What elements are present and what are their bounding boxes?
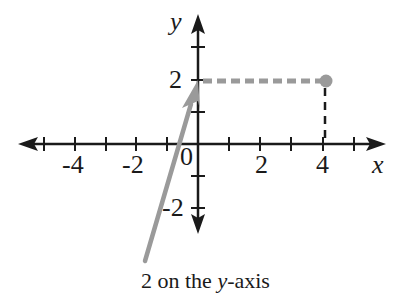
y-tick-label-2: 2	[169, 65, 182, 94]
caption-prefix: 2 on the	[141, 268, 217, 293]
caption-suffix: -axis	[227, 268, 270, 293]
y-axis-label: y	[167, 7, 182, 36]
caption-axis-var: y	[217, 268, 227, 293]
x-tick-label-2: 2	[255, 150, 268, 179]
x-axis	[18, 137, 386, 151]
point-4-2	[320, 75, 333, 88]
y-axis	[191, 14, 205, 234]
coordinate-plane: y x 2 -2 -4 -2 0 2 4	[0, 0, 398, 304]
annotation-caption: 2 on the y-axis	[141, 268, 270, 294]
x-tick-label-4: 4	[316, 150, 329, 179]
x-tick-label-neg2: -2	[122, 150, 144, 179]
x-tick-label-0: 0	[180, 142, 193, 171]
x-axis-label: x	[371, 150, 384, 179]
x-tick-label-neg4: -4	[62, 150, 84, 179]
